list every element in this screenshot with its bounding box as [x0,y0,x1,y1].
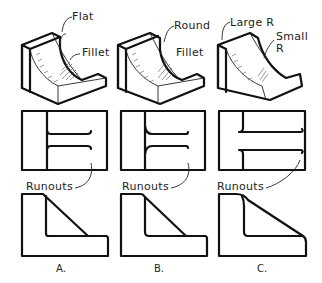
callout-round: Round [174,19,210,32]
callout-r: R [276,42,284,55]
caption-b: B. [154,263,164,274]
isometric-view-c [218,33,302,100]
caption-a: A. [56,263,66,274]
runouts-label-a: Runouts [26,180,73,193]
front-view-c [219,194,306,256]
top-view-b [121,111,205,170]
top-view-a [22,111,107,170]
isometric-view-a [22,33,106,104]
technical-drawing-figure: Flat Fillet Round Fillet Large R Small R [0,0,322,283]
callout-large-r: Large R [230,16,274,29]
runouts-label-c: Runouts [217,180,264,193]
callout-fillet-a: Fillet [82,46,110,59]
top-view-c [219,111,305,170]
caption-c: C. [257,263,267,274]
runouts-label-b: Runouts [122,180,169,193]
callout-fillet-b: Fillet [176,46,204,59]
front-view-b [121,194,207,256]
callout-flat: Flat [72,10,94,23]
isometric-view-b [118,33,204,104]
front-view-a [22,194,108,256]
